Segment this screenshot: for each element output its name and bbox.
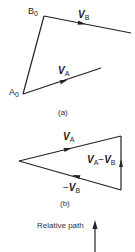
label-vector-diff: VA−VB bbox=[87, 155, 116, 166]
neg-vb-letter: V bbox=[69, 182, 76, 193]
vector-diagram bbox=[0, 0, 135, 252]
line-a0-b0 bbox=[23, 16, 44, 94]
b-va-letter: V bbox=[63, 131, 70, 142]
triangle-va-arrow-icon bbox=[64, 146, 73, 152]
b-va-sub: A bbox=[70, 136, 75, 143]
label-vector-b: VB bbox=[78, 10, 89, 21]
vb-sub: B bbox=[85, 14, 90, 21]
neg-vb-sub: B bbox=[76, 187, 81, 194]
caption-a: (a) bbox=[58, 108, 68, 118]
label-a0: A0 bbox=[9, 87, 19, 98]
va-sub: A bbox=[65, 70, 70, 77]
b0-sub: 0 bbox=[34, 10, 38, 17]
label-vector-a: VA bbox=[58, 66, 69, 77]
diff-sub1: A bbox=[94, 159, 99, 166]
relative-path bbox=[93, 220, 98, 252]
label-relative-path: Relative path bbox=[37, 221, 84, 231]
label-neg-vector-b: −VB bbox=[63, 183, 80, 194]
caption-b: (b) bbox=[60, 199, 70, 209]
diff-letter1: V bbox=[87, 154, 94, 165]
figure-a bbox=[23, 16, 131, 94]
label-b0: B0 bbox=[28, 6, 38, 17]
relative-path-arrow-icon bbox=[93, 220, 98, 229]
diff-letter2: V bbox=[104, 154, 111, 165]
vb-letter: V bbox=[78, 9, 85, 20]
label-b-vector-a: VA bbox=[63, 132, 74, 143]
triangle-diff-arrow-icon bbox=[119, 159, 123, 167]
diff-sub2: B bbox=[111, 159, 116, 166]
a0-sub: 0 bbox=[15, 91, 19, 98]
va-letter: V bbox=[58, 65, 65, 76]
